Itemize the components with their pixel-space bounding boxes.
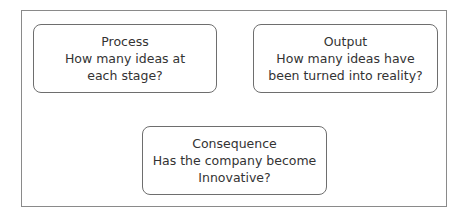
consequence-box: Consequence Has the company become Innov… xyxy=(142,126,327,195)
process-line-1: How many ideas at xyxy=(65,50,185,67)
consequence-line-1: Has the company become xyxy=(153,152,317,169)
output-title: Output xyxy=(324,33,367,50)
process-title: Process xyxy=(101,33,148,50)
output-box: Output How many ideas have been turned i… xyxy=(253,24,438,93)
consequence-line-2: Innovative? xyxy=(198,169,270,186)
output-line-1: How many ideas have xyxy=(276,50,414,67)
output-line-2: been turned into reality? xyxy=(268,67,423,84)
process-line-2: each stage? xyxy=(87,67,162,84)
consequence-title: Consequence xyxy=(192,135,277,152)
process-box: Process How many ideas at each stage? xyxy=(33,24,217,93)
